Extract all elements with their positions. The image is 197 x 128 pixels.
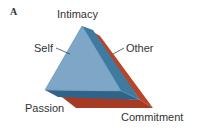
layer-label-other: Other: [126, 43, 154, 54]
layer-label-self: Self: [34, 43, 53, 54]
other-pointer-line: [113, 48, 124, 54]
vertex-label-intimacy: Intimacy: [57, 9, 98, 20]
vertex-label-passion: Passion: [25, 103, 64, 114]
vertex-label-commitment: Commitment: [121, 112, 183, 123]
